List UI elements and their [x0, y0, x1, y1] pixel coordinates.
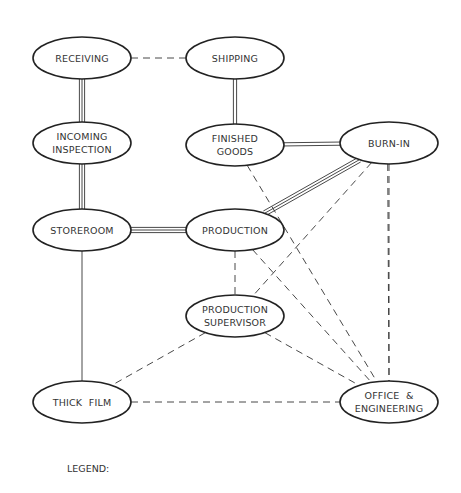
node-ellipse: [186, 295, 284, 337]
edge-shipping-finished: [233, 79, 236, 124]
node-label: SHIPPING: [212, 53, 258, 64]
edge-receiving-incoming: [79, 79, 84, 122]
node-ellipse: [186, 124, 284, 166]
node-receiving: RECEIVING: [33, 37, 131, 79]
node-supervisor: PRODUCTIONSUPERVISOR: [186, 295, 284, 337]
node-ellipse: [340, 381, 438, 423]
node-label: FINISHED: [212, 133, 258, 144]
node-label: ENGINEERING: [355, 403, 423, 414]
node-finished: FINISHEDGOODS: [186, 124, 284, 166]
node-shipping: SHIPPING: [186, 37, 284, 79]
edge-finished-burnin: [284, 142, 340, 146]
edge-supervisor-thickfilm: [112, 333, 206, 386]
node-label: RECEIVING: [55, 53, 109, 64]
edge-storeroom-production: [131, 227, 186, 232]
node-label: SUPERVISOR: [204, 317, 266, 328]
node-thickfilm: THICK FILM: [33, 381, 131, 423]
node-label: PRODUCTION: [202, 304, 268, 315]
edge-production-burnin: [263, 157, 360, 215]
node-storeroom: STOREROOM: [33, 209, 131, 251]
node-ellipse: [33, 122, 131, 164]
node-label: INSPECTION: [52, 144, 112, 155]
node-label: PRODUCTION: [202, 225, 268, 236]
nodes: RECEIVINGSHIPPINGINCOMINGINSPECTIONFINIS…: [33, 37, 438, 423]
node-incoming: INCOMINGINSPECTION: [33, 122, 131, 164]
edge-supervisor-office: [265, 333, 359, 386]
node-production: PRODUCTION: [186, 209, 284, 251]
node-label: GOODS: [217, 146, 254, 157]
node-label: INCOMING: [56, 131, 107, 142]
node-label: THICK FILM: [52, 397, 112, 408]
node-burnin: BURN-IN: [340, 122, 438, 164]
legend-label: LEGEND:: [67, 463, 109, 474]
edge-incoming-storeroom: [79, 164, 84, 209]
edge-finished-office: [247, 165, 377, 381]
node-label: OFFICE &: [364, 390, 413, 401]
node-label: BURN-IN: [368, 138, 410, 149]
node-office: OFFICE &ENGINEERING: [340, 381, 438, 423]
relationship-diagram: RECEIVINGSHIPPINGINCOMINGINSPECTIONFINIS…: [0, 0, 461, 493]
node-label: STOREROOM: [50, 225, 113, 236]
